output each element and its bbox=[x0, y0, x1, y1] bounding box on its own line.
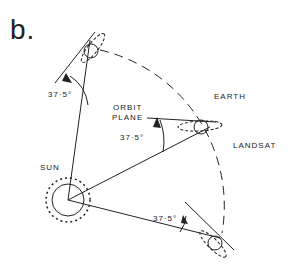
orbit-plane-label-1: ORBIT bbox=[113, 103, 142, 113]
landsat-label: LANDSAT bbox=[233, 141, 276, 151]
earth-top bbox=[84, 44, 98, 58]
sun-label: SUN bbox=[40, 163, 60, 173]
angle-label-bottom: 37·5° bbox=[153, 214, 177, 224]
angle-label-mid: 37·5° bbox=[120, 133, 144, 143]
angle-label-top: 37·5° bbox=[48, 90, 72, 100]
earth-label: EARTH bbox=[214, 92, 246, 102]
earth-bottom bbox=[208, 236, 222, 250]
orbit-plane-label-2: PLANE bbox=[112, 113, 143, 123]
earth-orbit-arc bbox=[100, 50, 224, 233]
sun-earth-orbit-diagram bbox=[0, 0, 299, 271]
